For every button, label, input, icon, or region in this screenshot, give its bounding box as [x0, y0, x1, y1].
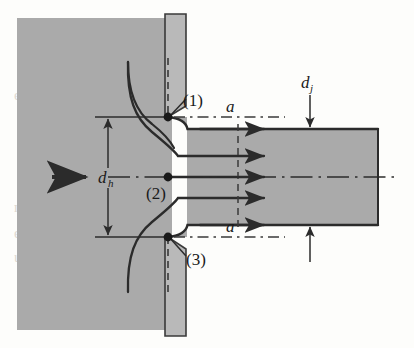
- label-dj-symbol: d: [301, 73, 310, 92]
- point-3-marker: [164, 233, 173, 242]
- label-section-a-bottom: a: [226, 217, 235, 236]
- point-2-marker: [164, 173, 173, 182]
- label-point-1: (1): [183, 91, 203, 110]
- label-dh-subscript: h: [108, 177, 114, 189]
- reservoir-fluid-region: [17, 18, 172, 330]
- label-jet-diameter: d j: [301, 73, 313, 94]
- jet-boundary-upper: [168, 117, 378, 129]
- diagram-canvas: ead ing p ssure nsion e flow urve: [0, 0, 414, 348]
- point-1-marker: [164, 113, 173, 122]
- jet-boundary-lower: [168, 225, 378, 237]
- label-point-3: (3): [186, 250, 206, 269]
- label-point-2: (2): [146, 184, 166, 203]
- orifice-jet-figure: ead ing p ssure nsion e flow urve: [0, 0, 414, 348]
- label-section-a-top: a: [226, 97, 235, 116]
- label-dh-symbol: d: [98, 168, 107, 187]
